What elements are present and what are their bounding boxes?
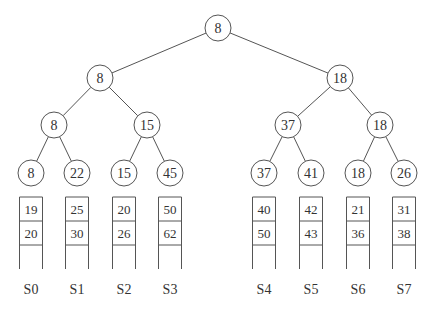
internal-node: 8 (41, 112, 67, 138)
tree-edge (298, 87, 331, 117)
tree-edge (153, 137, 165, 162)
tree-edges (37, 33, 399, 161)
sequence-label: S3 (163, 282, 178, 297)
buffer-value: 50 (164, 202, 177, 217)
sequence-s0: 1920S0 (20, 197, 43, 297)
sequence-s6: 2136S6 (347, 197, 370, 297)
node-value: 18 (333, 71, 347, 86)
tree-edge (130, 137, 142, 162)
internal-node: 15 (134, 112, 160, 138)
sequence-label: S5 (304, 282, 319, 297)
node-value: 8 (51, 118, 58, 133)
internal-node: 37 (275, 112, 301, 138)
buffer-value: 19 (25, 202, 38, 217)
buffer-value: 38 (398, 226, 411, 241)
leaf-node: 26 (391, 160, 417, 186)
node-value: 22 (70, 166, 84, 181)
tree-edge (37, 137, 49, 162)
node-value: 41 (304, 166, 318, 181)
node-value: 15 (140, 118, 154, 133)
buffer-value: 62 (164, 226, 177, 241)
node-value: 18 (373, 118, 387, 133)
diagram-svg: 88188153718822154537411826 1920S02530S12… (0, 0, 437, 311)
leaf-node: 41 (298, 160, 324, 186)
internal-node: 8 (87, 65, 113, 91)
node-value: 45 (163, 166, 177, 181)
sequence-s5: 4243S5 (300, 197, 323, 297)
leaf-node: 15 (111, 160, 137, 186)
node-value: 18 (351, 166, 365, 181)
root-node: 8 (205, 15, 231, 41)
buffer-value: 30 (71, 226, 84, 241)
buffer-value: 31 (398, 202, 411, 217)
node-value: 37 (281, 118, 295, 133)
node-value: 8 (28, 166, 35, 181)
sequence-label: S0 (24, 282, 39, 297)
tree-edge (112, 33, 206, 73)
buffer-value: 50 (258, 226, 271, 241)
leaf-node: 22 (64, 160, 90, 186)
sequence-s7: 3138S7 (393, 197, 416, 297)
leaf-node: 18 (345, 160, 371, 186)
tree-edge (386, 137, 398, 162)
buffer-value: 26 (118, 226, 132, 241)
buffer-value: 20 (25, 226, 38, 241)
sequence-label: S4 (257, 282, 272, 297)
sequence-label: S6 (351, 282, 366, 297)
buffer-value: 42 (305, 202, 318, 217)
buffer-value: 40 (258, 202, 271, 217)
sequence-runs: 1920S02530S12026S25062S34050S44243S52136… (20, 197, 416, 297)
sequence-label: S7 (397, 282, 412, 297)
tree-edge (63, 87, 91, 115)
internal-node: 18 (367, 112, 393, 138)
leaf-node: 45 (157, 160, 183, 186)
leaf-node: 37 (251, 160, 277, 186)
tree-edge (60, 137, 72, 162)
buffer-value: 25 (71, 202, 84, 217)
node-value: 8 (215, 21, 222, 36)
node-value: 8 (97, 71, 104, 86)
internal-node: 18 (327, 65, 353, 91)
tree-edge (363, 137, 374, 161)
tournament-tree-diagram: 88188153718822154537411826 1920S02530S12… (0, 0, 437, 311)
node-value: 26 (397, 166, 411, 181)
tree-edge (109, 87, 138, 116)
buffer-value: 36 (352, 226, 366, 241)
tree-edge (294, 137, 306, 162)
sequence-s3: 5062S3 (159, 197, 182, 297)
node-value: 15 (117, 166, 131, 181)
sequence-label: S1 (70, 282, 85, 297)
node-value: 37 (257, 166, 271, 181)
sequence-label: S2 (117, 282, 132, 297)
tree-edge (230, 33, 328, 73)
sequence-s4: 4050S4 (253, 197, 276, 297)
leaf-node: 8 (18, 160, 44, 186)
buffer-value: 21 (352, 202, 365, 217)
buffer-value: 43 (305, 226, 318, 241)
sequence-s2: 2026S2 (113, 197, 136, 297)
sequence-s1: 2530S1 (66, 197, 89, 297)
buffer-value: 20 (118, 202, 131, 217)
tree-edge (270, 137, 282, 162)
tree-edge (348, 88, 371, 115)
